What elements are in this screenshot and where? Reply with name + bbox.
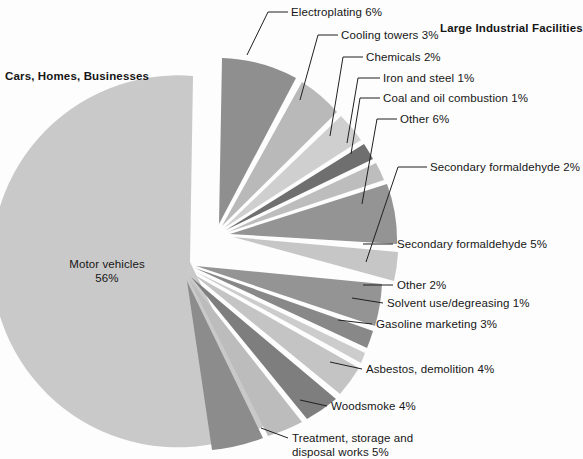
slice-label-motor-vehicles-value: 56%: [47, 272, 167, 285]
leader-line-electroplating: [247, 12, 288, 55]
callout-label-treatment-storage-line2: disposal works 5%: [292, 446, 389, 459]
group-title-large-industrial-facilities: Large Industrial Facilities: [440, 22, 583, 35]
callout-label-secondary-formaldehyde-cars: Secondary formaldehyde 5%: [397, 238, 547, 251]
group-title-cars-homes-businesses: Cars, Homes, Businesses: [5, 70, 149, 83]
callout-label-secondary-formaldehyde-industrial: Secondary formaldehyde 2%: [430, 161, 580, 174]
callout-label-electroplating: Electroplating 6%: [291, 6, 382, 19]
callout-label-chemicals: Chemicals 2%: [366, 51, 441, 64]
callout-label-asbestos-demolition: Asbestos, demolition 4%: [366, 363, 494, 376]
callout-label-solvent-use: Solvent use/degreasing 1%: [387, 297, 530, 310]
callout-label-coal-and-oil-combustion: Coal and oil combustion 1%: [383, 92, 528, 105]
callout-label-treatment-storage-line1: Treatment, storage and: [292, 432, 413, 445]
callout-label-other-cars: Other 2%: [397, 279, 446, 292]
callout-label-iron-and-steel: Iron and steel 1%: [383, 72, 474, 85]
callout-label-other-industrial: Other 6%: [400, 113, 449, 126]
callout-label-gasoline-marketing: Gasoline marketing 3%: [376, 318, 497, 331]
callout-label-cooling-towers: Cooling towers 3%: [341, 29, 439, 42]
callout-label-woodsmoke: Woodsmoke 4%: [331, 400, 416, 413]
slice-label-motor-vehicles-name: Motor vehicles: [47, 258, 167, 271]
